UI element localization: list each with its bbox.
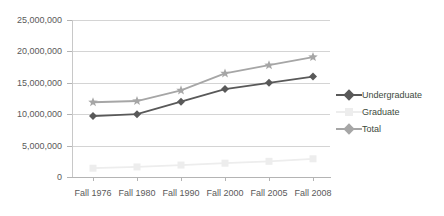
data-point (264, 60, 274, 69)
data-point (221, 85, 229, 93)
series-total (88, 52, 318, 106)
line-chart: 25,000,000 20,000,000 15,000,000 10,000,… (0, 0, 444, 216)
data-point (89, 112, 97, 120)
legend-label-total: Total (362, 124, 381, 134)
data-point (176, 85, 186, 94)
diamond-marker-icon (343, 89, 354, 100)
data-point (132, 96, 142, 105)
data-point (310, 155, 317, 162)
data-point (178, 162, 185, 169)
legend-swatch-undergraduate (336, 89, 362, 101)
data-point (90, 165, 97, 172)
legend-label-graduate: Graduate (362, 107, 400, 117)
data-point (266, 158, 273, 165)
data-point (88, 97, 98, 106)
legend-item-undergraduate: Undergraduate (336, 86, 440, 103)
legend-item-total: Total (336, 120, 440, 137)
data-point (265, 79, 273, 87)
square-marker-icon (345, 108, 353, 116)
legend-swatch-graduate (336, 106, 362, 118)
data-point (177, 98, 185, 106)
data-point (309, 73, 317, 81)
data-point (220, 68, 230, 77)
data-point (308, 52, 318, 61)
legend-swatch-total (336, 123, 362, 135)
data-point (133, 110, 141, 118)
series-graduate (90, 155, 317, 171)
legend-label-undergraduate: Undergraduate (362, 90, 422, 100)
legend: Undergraduate Graduate Total (336, 86, 440, 137)
series-undergraduate (89, 73, 317, 121)
legend-item-graduate: Graduate (336, 103, 440, 120)
star-marker-icon (343, 123, 354, 134)
data-point (134, 163, 141, 170)
data-point (222, 160, 229, 167)
